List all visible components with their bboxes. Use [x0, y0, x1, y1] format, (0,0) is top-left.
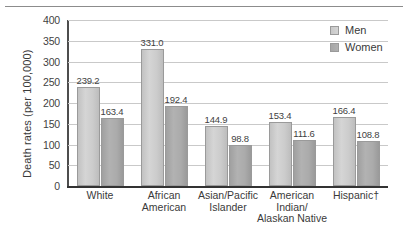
bar-women: 108.8 — [357, 141, 380, 186]
y-axis-tick-label: 350 — [34, 35, 60, 47]
y-axis-tick-label: 100 — [34, 139, 60, 151]
y-axis-tick-label: 300 — [34, 56, 60, 68]
y-axis-title-text: Death rates (per 100,000) — [21, 50, 33, 178]
chart-figure: Death rates (per 100,000) 40035030025020… — [0, 0, 408, 229]
top-divider-rule — [5, 6, 403, 7]
legend-swatch-men-icon — [330, 26, 339, 35]
y-axis-tick-label: 50 — [34, 159, 60, 171]
bar-women: 163.4 — [101, 118, 124, 186]
bar-men: 239.2 — [77, 87, 100, 186]
y-axis-tick-label: 0 — [34, 180, 60, 192]
bar-value-label: 239.2 — [77, 75, 100, 86]
bar-value-label: 153.4 — [269, 110, 292, 121]
bar-men: 153.4 — [269, 122, 292, 186]
bar-men: 166.4 — [333, 117, 356, 186]
y-axis-tick-label: 150 — [34, 118, 60, 130]
legend-swatch-women-icon — [330, 43, 339, 52]
bar-value-label: 98.8 — [231, 133, 249, 144]
gridline — [68, 103, 388, 104]
legend-label-men: Men — [345, 24, 366, 36]
bar-value-label: 166.4 — [333, 105, 356, 116]
bar-women: 192.4 — [165, 106, 188, 186]
x-axis-category-label: Hispanic† — [316, 190, 396, 202]
bar-value-label: 108.8 — [357, 129, 380, 140]
y-axis-tick-label: 250 — [34, 76, 60, 88]
y-axis-tick-label: 400 — [34, 14, 60, 26]
bar-men: 144.9 — [205, 126, 228, 186]
gridline — [68, 20, 388, 21]
bar-men: 331.0 — [141, 49, 164, 186]
y-axis-tick-label: 200 — [34, 97, 60, 109]
bar-value-label: 163.4 — [101, 106, 124, 117]
bar-women: 111.6 — [293, 140, 316, 186]
bar-value-label: 192.4 — [165, 94, 188, 105]
bar-women: 98.8 — [229, 145, 252, 186]
gridline — [68, 62, 388, 63]
legend-item-women: Women — [330, 41, 383, 53]
legend-item-men: Men — [330, 24, 383, 36]
legend: Men Women — [330, 24, 383, 58]
y-axis-title: Death rates (per 100,000) — [6, 28, 24, 178]
bar-value-label: 111.6 — [293, 128, 314, 139]
legend-label-women: Women — [345, 41, 383, 53]
bar-value-label: 144.9 — [205, 114, 228, 125]
gridline — [68, 82, 388, 83]
bar-value-label: 331.0 — [141, 37, 164, 48]
